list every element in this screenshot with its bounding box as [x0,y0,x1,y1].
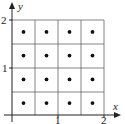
midpoint-dot [91,54,95,58]
midpoint-dot [45,78,49,82]
midpoint-dot [22,54,26,58]
midpoint-dot [45,101,49,105]
midpoint-dot [91,101,95,105]
midpoint-dot [22,30,26,34]
x-axis-arrow-icon [114,112,121,118]
y-tick-2: 2 [1,14,7,26]
x-axis-label: x [112,100,118,112]
y-axis-arrow-icon [9,2,15,9]
axes [4,6,117,122]
midpoint-dot [68,78,72,82]
y-axis-label: y [17,0,23,12]
midpoint-dot [68,30,72,34]
x-tick-2: 2 [101,114,107,124]
x-tick-1: 1 [55,114,61,124]
grid-lines [12,20,104,115]
grid-diagram: y x 2 1 1 2 [0,0,125,124]
midpoint-dot [22,78,26,82]
midpoint-dot [68,54,72,58]
y-tick-1: 1 [2,62,8,74]
midpoint-dot [91,30,95,34]
midpoint-dot [91,78,95,82]
midpoint-dot [22,101,26,105]
midpoint-dot [45,54,49,58]
midpoint-dot [68,101,72,105]
midpoint-dot [45,30,49,34]
